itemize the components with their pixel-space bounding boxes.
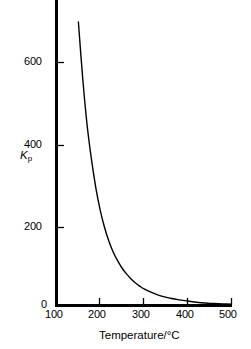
x-tick-label-300: 300 bbox=[132, 309, 150, 320]
y-axis-title: Kp bbox=[20, 149, 32, 163]
plot-area bbox=[0, 0, 251, 349]
x-axis-title: Temperature/°C bbox=[99, 329, 180, 341]
y-axis-title-base: K bbox=[20, 149, 28, 161]
x-tick-label-500: 500 bbox=[219, 309, 237, 320]
x-tick-label-400: 400 bbox=[176, 309, 194, 320]
x-tick-label-100: 100 bbox=[45, 309, 63, 320]
x-tick-label-200: 200 bbox=[88, 309, 106, 320]
chart-background bbox=[0, 0, 251, 349]
y-axis-title-subscript: p bbox=[28, 154, 32, 163]
chart-container: 0 200 400 600 100 200 300 400 500 Temper… bbox=[0, 0, 251, 349]
y-tick-label-200: 200 bbox=[24, 221, 42, 232]
y-tick-label-600: 600 bbox=[24, 56, 42, 67]
